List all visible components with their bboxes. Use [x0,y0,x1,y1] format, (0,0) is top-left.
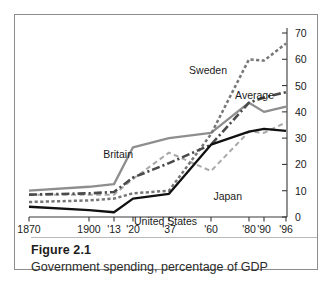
x-axis-tick-label: 1870 [17,223,41,235]
series-line-sweden [29,44,286,203]
y-axis-tick-labels: 010203040506070 [295,27,307,223]
figure-number: Figure 2.1 [31,243,311,258]
x-axis-tick-label: '96 [279,223,293,235]
y-axis-tick-label: 30 [295,132,307,144]
y-axis-tick-label: 40 [295,106,307,118]
x-axis-tick-label: 1900 [77,223,101,235]
figure-caption-text: Government spending, percentage of GDP [31,259,311,275]
x-axis-tick-label: '80 [242,223,256,235]
series-line-average [29,92,286,195]
y-axis-tick-label: 50 [295,80,307,92]
x-axis-tick-label: '90 [257,223,271,235]
y-axis-tick-label: 10 [295,185,307,197]
y-axis-tick-label: 20 [295,158,307,170]
y-axis-tick-label: 60 [295,53,307,65]
series-label-japan: Japan [213,190,242,202]
x-axis-tick-label: '13 [107,223,121,235]
series-label-average: Average [235,89,274,101]
chart-series [29,44,286,213]
series-label-united-states: United States [134,215,197,227]
series-label-britain: Britain [103,148,133,160]
figure-caption-block: Figure 2.1 Government spending, percenta… [31,243,311,275]
series-label-sweden: Sweden [189,64,227,76]
x-axis-tick-label: '60 [204,223,218,235]
y-axis-tick-label: 0 [295,211,301,223]
figure-frame: 010203040506070 18701900'13'20'37'60'80'… [14,14,318,270]
y-axis-tick-label: 70 [295,27,307,39]
government-spending-line-chart: 010203040506070 18701900'13'20'37'60'80'… [15,15,319,245]
caption-divider [31,237,317,238]
chart-plot-area: 010203040506070 18701900'13'20'37'60'80'… [15,15,319,245]
series-line-britain [29,103,286,191]
